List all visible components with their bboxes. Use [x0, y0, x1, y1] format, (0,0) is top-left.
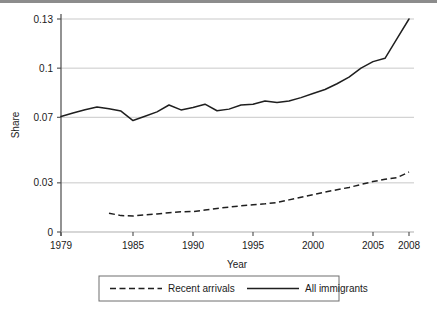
chart-container: 00.030.070.10.13 19791985199019952000200… — [0, 0, 437, 309]
legend: Recent arrivals All immigrants — [99, 276, 368, 301]
legend-label-all-immigrants: All immigrants — [305, 283, 368, 294]
x-ticklabel-3: 1995 — [242, 240, 265, 251]
series-line-recent-arrivals — [109, 172, 409, 216]
x-ticklabel-1: 1985 — [122, 240, 145, 251]
x-axis-label: Year — [227, 259, 248, 270]
y-ticklabel-0: 0 — [47, 227, 53, 238]
y-ticklabel-2: 0.07 — [34, 112, 54, 123]
legend-label-recent-arrivals: Recent arrivals — [168, 283, 235, 294]
x-tick-group: 1979198519901995200020052008 — [50, 232, 421, 251]
y-axis-label: Share — [10, 111, 21, 138]
x-ticklabel-6: 2008 — [398, 240, 421, 251]
y-ticklabel-3: 0.1 — [39, 63, 53, 74]
y-ticklabel-1: 0.03 — [34, 177, 54, 188]
gridlines-group — [61, 19, 414, 232]
line-chart: 00.030.070.10.13 19791985199019952000200… — [0, 0, 437, 309]
y-ticklabel-4: 0.13 — [34, 14, 54, 25]
series-line-all-immigrants — [61, 19, 409, 121]
x-ticklabel-5: 2005 — [362, 240, 385, 251]
x-ticklabel-4: 2000 — [302, 240, 325, 251]
top-edge-artifact — [0, 0, 437, 3]
y-tick-group: 00.030.070.10.13 — [34, 14, 61, 238]
x-ticklabel-0: 1979 — [50, 240, 73, 251]
x-ticklabel-2: 1990 — [182, 240, 205, 251]
